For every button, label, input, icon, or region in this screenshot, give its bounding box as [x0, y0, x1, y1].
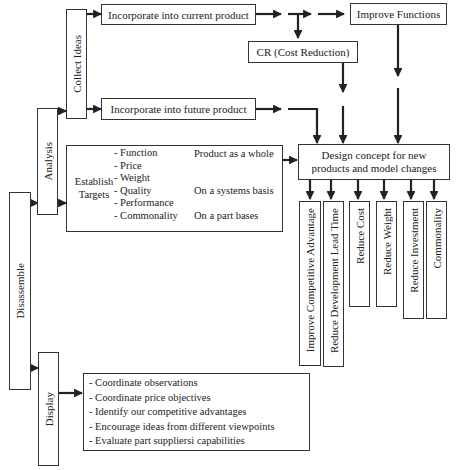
establish-label-line2: Targets: [71, 188, 117, 201]
target-item: - Price: [114, 160, 178, 173]
outcome-reduce-cost: Reduce Cost: [349, 201, 370, 307]
outcome-label: Reduce Cost: [354, 208, 366, 264]
collect-ideas-box: Collect Ideas: [66, 9, 87, 119]
future-product-label: Incorporate into future product: [111, 103, 247, 115]
outcome-label: Improve Competitive Advantage: [304, 208, 316, 352]
outcome-label: Reduce Weight: [381, 208, 393, 275]
disassemble-label: Disassemble: [14, 263, 26, 319]
outcome-reduce-weight: Reduce Weight: [376, 201, 397, 307]
improve-functions-label: Improve Functions: [357, 8, 440, 20]
display-item: - Encourage ideas from different viewpoi…: [89, 420, 309, 435]
display-items-box: - Coordinate observations - Coordinate p…: [83, 373, 310, 451]
target-item: - Function: [114, 147, 178, 160]
collect-ideas-label: Collect Ideas: [71, 35, 83, 93]
outcome-label: Commonality: [431, 208, 443, 269]
analysis-box: Analysis: [37, 108, 58, 215]
target-item: - Performance: [114, 197, 178, 210]
outcome-commonality: Commonality: [426, 201, 447, 319]
target-scope: Product as a whole: [194, 147, 274, 160]
design-concept-box: Design concept for new products and mode…: [298, 144, 450, 180]
future-product-box: Incorporate into future product: [101, 98, 256, 120]
outcome-reduce-investment: Reduce Investment: [403, 201, 424, 319]
outcome-improve-competitive-advantage: Improve Competitive Advantage: [299, 201, 321, 366]
target-scope: On a part bases: [194, 209, 258, 222]
target-item: - Weight: [114, 172, 178, 185]
current-product-label: Incorporate into current product: [108, 9, 249, 21]
outcome-reduce-development-lead-time: Reduce Development Lead Time: [323, 201, 344, 367]
target-scope: On a systems basis: [194, 184, 274, 197]
target-items-list: - Function - Price - Weight - Quality - …: [114, 147, 178, 222]
design-concept-line2: products and model changes: [312, 162, 437, 175]
current-product-box: Incorporate into current product: [101, 4, 256, 25]
display-box: Display: [38, 352, 59, 466]
outcome-label: Reduce Development Lead Time: [328, 208, 340, 353]
display-item: - Coordinate observations: [89, 376, 309, 391]
display-item: - Coordinate price objectives: [89, 391, 309, 406]
improve-functions-box: Improve Functions: [350, 3, 447, 25]
establish-label-line1: Establish: [71, 175, 117, 188]
design-concept-line1: Design concept for new: [322, 149, 427, 162]
cost-reduction-label: CR (Cost Reduction): [257, 46, 350, 58]
target-item: - Quality: [114, 185, 178, 198]
establish-targets-title: Establish Targets: [71, 175, 117, 201]
cost-reduction-box: CR (Cost Reduction): [248, 41, 358, 63]
display-item: - Identify our competitive advantages: [89, 405, 309, 420]
display-item: - Evaluate part suppliersi capabilities: [89, 434, 309, 449]
display-label: Display: [43, 392, 55, 426]
establish-targets-box: Establish Targets - Function - Price - W…: [66, 145, 283, 232]
disassemble-box: Disassemble: [9, 192, 31, 390]
target-item: - Commonality: [114, 210, 178, 223]
analysis-label: Analysis: [42, 142, 54, 181]
outcome-label: Reduce Investment: [408, 208, 420, 293]
